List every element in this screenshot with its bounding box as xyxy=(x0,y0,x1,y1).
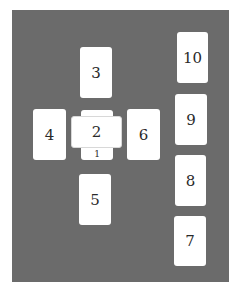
card-9-label: 9 xyxy=(186,111,196,129)
card-4: 4 xyxy=(33,109,66,160)
card-3: 3 xyxy=(80,47,112,98)
card-2: 2 xyxy=(71,116,122,148)
card-8: 8 xyxy=(175,155,206,206)
card-9: 9 xyxy=(175,94,207,145)
card-7: 7 xyxy=(174,216,206,266)
card-5-label: 5 xyxy=(90,191,100,209)
card-2-label: 2 xyxy=(92,123,102,141)
card-3-label: 3 xyxy=(91,64,101,82)
card-10-label: 10 xyxy=(183,49,202,67)
card-10: 10 xyxy=(177,32,208,83)
card-1-label: 1 xyxy=(94,149,100,159)
card-6: 6 xyxy=(127,109,160,160)
card-7-label: 7 xyxy=(185,232,195,250)
card-6-label: 6 xyxy=(139,126,149,144)
card-5: 5 xyxy=(79,174,111,225)
card-4-label: 4 xyxy=(45,126,55,144)
card-8-label: 8 xyxy=(186,172,196,190)
